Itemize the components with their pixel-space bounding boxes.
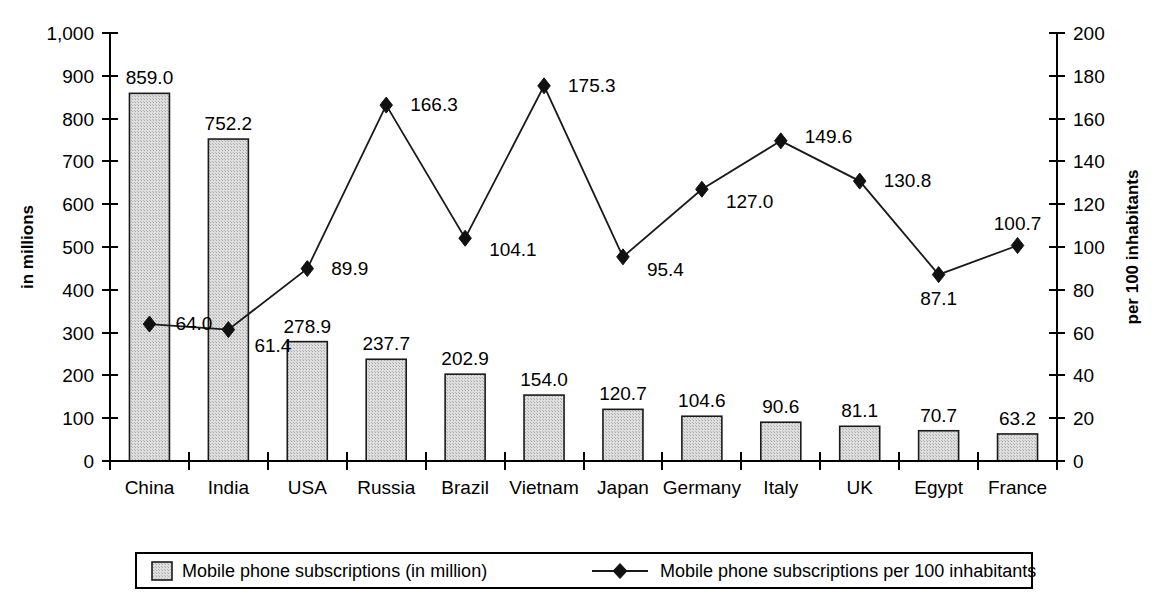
left-tick-label: 500 [62,237,94,258]
left-tick-label: 600 [62,194,94,215]
right-tick-label: 20 [1073,408,1094,429]
line-value-germany: 127.0 [726,191,774,212]
left-tick-label: 800 [62,109,94,130]
bar-value-italy: 90.6 [762,396,799,417]
right-tick-label: 180 [1073,66,1105,87]
bar-japan [603,409,643,461]
line-value-japan: 95.4 [647,259,684,280]
bar-value-uk: 81.1 [841,400,878,421]
bar-vietnam [524,395,564,461]
category-label-france: France [988,477,1047,498]
line-path [149,86,1017,330]
right-tick-label: 0 [1073,451,1084,472]
category-label-china: China [125,477,175,498]
right-tick-label: 60 [1073,323,1094,344]
bar-egypt [919,431,959,461]
line-value-italy: 149.6 [805,126,853,147]
right-tick-label: 100 [1073,237,1105,258]
right-tick-label: 80 [1073,280,1094,301]
bar-usa [287,342,327,461]
plot-area: 01002003004005006007008009001,0000204060… [46,23,1104,498]
bar-value-egypt: 70.7 [920,405,957,426]
data-labels: 859.0752.2278.9237.7202.9154.0120.7104.6… [126,67,1042,429]
line-value-india: 61.4 [254,335,291,356]
left-tick-label: 1,000 [46,23,94,44]
left-tick-label: 0 [83,451,94,472]
bar-value-france: 63.2 [999,408,1036,429]
bar-value-vietnam: 154.0 [520,369,568,390]
line-value-russia: 166.3 [410,94,458,115]
category-label-italy: Italy [763,477,798,498]
right-axis-title: per 100 inhabitants [1123,170,1142,325]
line-value-france: 100.7 [994,213,1042,234]
line-value-brazil: 104.1 [489,239,537,260]
legend: Mobile phone subscriptions (in million) … [136,553,1036,588]
right-tick-label: 120 [1073,194,1105,215]
line-value-usa: 89.9 [331,258,368,279]
line-value-egypt: 87.1 [920,288,957,309]
bar-germany [682,416,722,461]
left-tick-label: 400 [62,280,94,301]
category-label-india: India [208,477,250,498]
bar-russia [366,359,406,461]
line-value-uk: 130.8 [884,170,932,191]
bar-value-india: 752.2 [205,113,253,134]
legend-label-line: Mobile phone subscriptions per 100 inhab… [660,561,1036,581]
bar-china [129,93,169,461]
left-tick-label: 900 [62,66,94,87]
line-value-vietnam: 175.3 [568,75,616,96]
line-marker-france [1011,238,1023,254]
category-label-russia: Russia [357,477,416,498]
bar-brazil [445,374,485,461]
bar-series [129,93,1037,461]
category-label-usa: USA [288,477,327,498]
bar-france [998,434,1038,461]
right-tick-label: 200 [1073,23,1105,44]
category-label-japan: Japan [597,477,649,498]
line-marker-brazil [459,230,471,246]
left-tick-label: 700 [62,151,94,172]
bar-value-usa: 278.9 [284,316,332,337]
bar-value-russia: 237.7 [362,333,410,354]
line-marker-vietnam [538,78,550,94]
line-marker-japan [617,249,629,265]
bar-value-brazil: 202.9 [441,348,489,369]
bar-uk [840,426,880,461]
category-label-egypt: Egypt [914,477,963,498]
bar-india [208,139,248,461]
right-tick-label: 160 [1073,109,1105,130]
bar-italy [761,422,801,461]
legend-label-bar: Mobile phone subscriptions (in million) [182,561,487,581]
chart-canvas: 01002003004005006007008009001,0000204060… [0,0,1164,604]
category-label-uk: UK [847,477,874,498]
line-value-china: 64.0 [175,313,212,334]
bar-value-china: 859.0 [126,67,174,88]
left-tick-label: 100 [62,408,94,429]
legend-swatch-bar [152,562,172,580]
category-label-vietnam: Vietnam [509,477,578,498]
category-label-germany: Germany [663,477,742,498]
right-tick-label: 40 [1073,365,1094,386]
bar-value-japan: 120.7 [599,383,647,404]
line-marker-usa [301,261,313,277]
category-label-brazil: Brazil [441,477,489,498]
line-marker-italy [775,133,787,149]
right-tick-label: 140 [1073,151,1105,172]
left-tick-label: 300 [62,323,94,344]
chart-container: 01002003004005006007008009001,0000204060… [0,0,1164,604]
line-series [143,78,1024,338]
bar-value-germany: 104.6 [678,390,726,411]
line-marker-germany [696,181,708,197]
left-tick-label: 200 [62,365,94,386]
left-axis-title: in millions [18,205,37,289]
line-marker-russia [380,97,392,113]
